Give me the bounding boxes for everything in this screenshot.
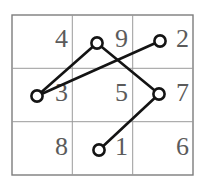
node-top-right — [154, 35, 165, 46]
node-left — [31, 90, 42, 101]
grid-cell-0-2: 2 — [176, 24, 189, 53]
grid-cell-0-1: 9 — [115, 24, 128, 53]
graph-nodes — [31, 35, 165, 155]
node-bottom — [93, 144, 104, 155]
figure-root: 492357816 — [0, 0, 204, 188]
grid-cell-2-1: 1 — [115, 132, 128, 161]
grid-cell-1-1: 5 — [115, 78, 128, 107]
grid-cell-labels: 492357816 — [55, 24, 189, 161]
grid-graph-figure: 492357816 — [0, 0, 204, 188]
grid-cell-2-2: 6 — [176, 132, 189, 161]
grid-cell-0-0: 4 — [55, 24, 68, 53]
grid-cell-1-2: 7 — [176, 78, 189, 107]
grid-cell-2-0: 8 — [55, 132, 68, 161]
node-top-mid — [91, 37, 102, 48]
node-right-mid — [153, 88, 164, 99]
